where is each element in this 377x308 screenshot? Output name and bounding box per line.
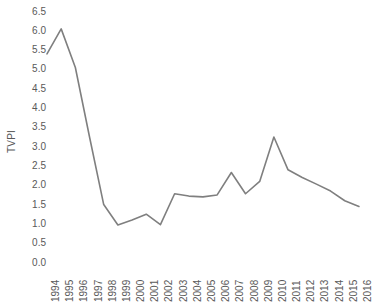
plot-area <box>0 0 377 308</box>
series-line-tvpi <box>47 29 359 225</box>
tvpi-line-chart: TVPI 6.56.05.55.04.54.03.53.02.52.01.51.… <box>0 0 377 308</box>
